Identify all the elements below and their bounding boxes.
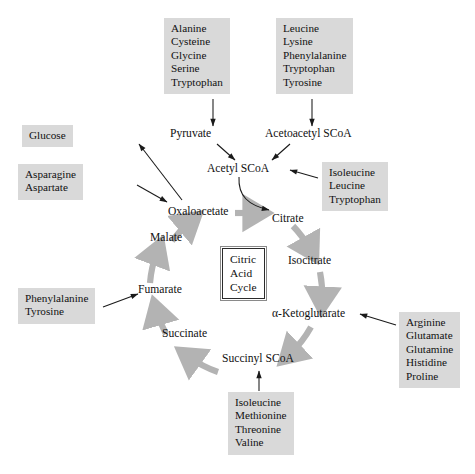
box-item: Histidine [406, 356, 453, 369]
node-pyruvate[interactable]: Pyruvate [170, 127, 211, 140]
box-item: Lysine [283, 35, 346, 48]
ring-arc-citrate-isocitrate [293, 226, 310, 249]
box-item: Methionine [235, 409, 287, 422]
box-alpha-ketoglutarate-precursors[interactable]: Arginine Glutamate Glutamine Histidine P… [399, 312, 460, 388]
node-acetoacetyl-scoa[interactable]: Acetoacetyl SCoA [265, 127, 352, 140]
box-item: Aspartate [25, 181, 76, 194]
box-fumarate-precursors[interactable]: Phenylalanine Tyrosine [18, 288, 95, 324]
box-item: Tryptophan [171, 76, 223, 89]
box-item: Phenylalanine [283, 49, 346, 62]
box-item: Isoleucine [329, 166, 381, 179]
box-item: Tryptophan [329, 193, 381, 206]
node-isocitrate[interactable]: Isocitrate [288, 254, 331, 267]
box-item: Tyrosine [283, 76, 346, 89]
node-oxaloacetate[interactable]: Oxaloacetate [168, 205, 229, 218]
arrow-aabox5-acetylscoa [290, 170, 318, 178]
box-item: Phenylalanine [25, 292, 88, 305]
node-succinyl-scoa[interactable]: Succinyl SCoA [222, 352, 294, 365]
arrow-aabox7-ketoglutarate [360, 314, 396, 325]
box-item: Tyrosine [25, 305, 88, 318]
node-acetyl-scoa[interactable]: Acetyl SCoA [207, 162, 269, 175]
box-item: Leucine [329, 179, 381, 192]
box-item: Alanine [171, 22, 223, 35]
box-acetyl-scoa-precursors[interactable]: Isoleucine Leucine Tryptophan [322, 162, 388, 211]
box-item: Arginine [406, 316, 453, 329]
box-succinyl-scoa-precursors[interactable]: Isoleucine Methionine Threonine Valine [228, 392, 294, 455]
diagram-canvas: Alanine Cysteine Glycine Serine Tryptoph… [0, 0, 475, 474]
cac-line-1: Citric [230, 252, 257, 266]
arrow-acetoacetylscoa-acetylscoa [272, 144, 290, 160]
box-item: Asparagine [25, 168, 76, 181]
box-item: Glycine [171, 49, 223, 62]
arrow-aabox4-oxaloacetate [137, 185, 167, 202]
box-item: Leucine [283, 22, 346, 35]
arrow-pyruvate-acetylscoa [217, 144, 235, 160]
node-fumarate[interactable]: Fumarate [138, 283, 182, 296]
box-item: Glucose [29, 129, 66, 142]
box-item: Threonine [235, 423, 287, 436]
citric-acid-cycle-box: Citric Acid Cycle [222, 248, 265, 299]
box-pyruvate-precursors[interactable]: Alanine Cysteine Glycine Serine Tryptoph… [164, 18, 230, 94]
arrow-oxaloacetate-glucose [139, 144, 182, 200]
ring-arc-succinylscoa-succinate [189, 357, 218, 372]
box-acetoacetyl-scoa-precursors[interactable]: Leucine Lysine Phenylalanine Tryptophan … [276, 18, 353, 94]
ring-arc-isocitrate-ketoglutarate [320, 272, 322, 300]
node-alpha-ketoglutarate[interactable]: α-Ketoglutarate [272, 307, 345, 320]
ring-arc-fumarate-malate [150, 252, 157, 283]
cac-line-3: Cycle [230, 280, 257, 294]
box-item: Serine [171, 62, 223, 75]
box-item: Glutamate [406, 329, 453, 342]
arrow-aabox6-fumarate [103, 294, 138, 307]
box-item: Proline [406, 370, 453, 383]
ring-arc-ketoglutarate-succinylscoa [290, 327, 311, 354]
box-item: Glutamine [406, 343, 453, 356]
cac-line-2: Acid [230, 266, 257, 280]
box-oxaloacetate-precursors[interactable]: Asparagine Aspartate [18, 164, 83, 200]
arrow-acetylscoa-citrate [239, 177, 269, 210]
node-malate[interactable]: Malate [150, 231, 182, 244]
box-glucose[interactable]: Glucose [22, 125, 73, 147]
box-item: Valine [235, 436, 287, 449]
box-item: Tryptophan [283, 62, 346, 75]
node-citrate[interactable]: Citrate [272, 212, 304, 225]
box-item: Cysteine [171, 35, 223, 48]
box-item: Isoleucine [235, 396, 287, 409]
node-succinate[interactable]: Succinate [162, 327, 207, 340]
